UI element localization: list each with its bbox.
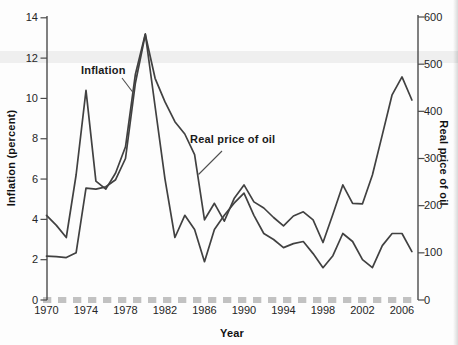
- right-axis-tick-label: 200: [424, 199, 442, 212]
- x-axis-tick-label: 1986: [185, 304, 225, 317]
- left-axis-tick-label: 2: [32, 253, 38, 266]
- x-axis-tick-label: 1994: [264, 304, 304, 317]
- right-axis-tick-label: 0: [424, 294, 430, 307]
- x-axis-tick-label: 1970: [27, 304, 67, 317]
- x-axis-title: Year: [202, 327, 262, 339]
- right-axis-tick-label: 600: [424, 11, 442, 24]
- x-axis-tick-label: 1982: [145, 304, 185, 317]
- left-axis-tick-label: 12: [26, 52, 38, 65]
- right-axis-tick-label: 500: [424, 58, 442, 71]
- figure-canvas: Inflation (percent) Real price of oil Ye…: [0, 0, 458, 345]
- x-axis-tick-label: 1978: [106, 304, 146, 317]
- left-axis-tick-label: 6: [32, 173, 38, 186]
- left-axis-tick-label: 10: [26, 92, 38, 105]
- x-axis-tick-label: 1998: [303, 304, 343, 317]
- left-axis-tick-label: 4: [32, 213, 38, 226]
- left-axis-tick-label: 8: [32, 132, 38, 145]
- x-axis-tick-label: 1974: [66, 304, 106, 317]
- inflation-annotation-pointer: [122, 78, 133, 93]
- inflation-series-label: Inflation: [81, 64, 126, 76]
- x-axis-tick-label: 1990: [224, 304, 264, 317]
- left-axis-tick-label: 14: [26, 11, 38, 24]
- right-axis-tick-label: 300: [424, 152, 442, 165]
- left-axis-title: Inflation (percent): [5, 68, 17, 248]
- right-axis-tick-label: 400: [424, 105, 442, 118]
- dual-axis-line-chart: [0, 0, 458, 345]
- right-axis-tick-label: 100: [424, 246, 442, 259]
- oil-series-label: Real price of oil: [190, 133, 275, 145]
- x-axis-tick-label: 2002: [343, 304, 383, 317]
- oil-annotation-pointer: [199, 151, 223, 175]
- x-axis-tick-label: 2006: [382, 304, 422, 317]
